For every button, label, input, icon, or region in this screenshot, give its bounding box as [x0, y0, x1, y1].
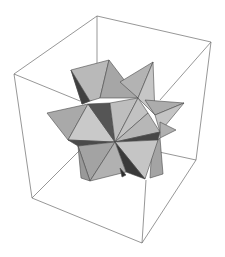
polyhedron-figure	[0, 0, 225, 257]
polyhedron-svg	[0, 0, 225, 257]
face	[160, 122, 176, 138]
